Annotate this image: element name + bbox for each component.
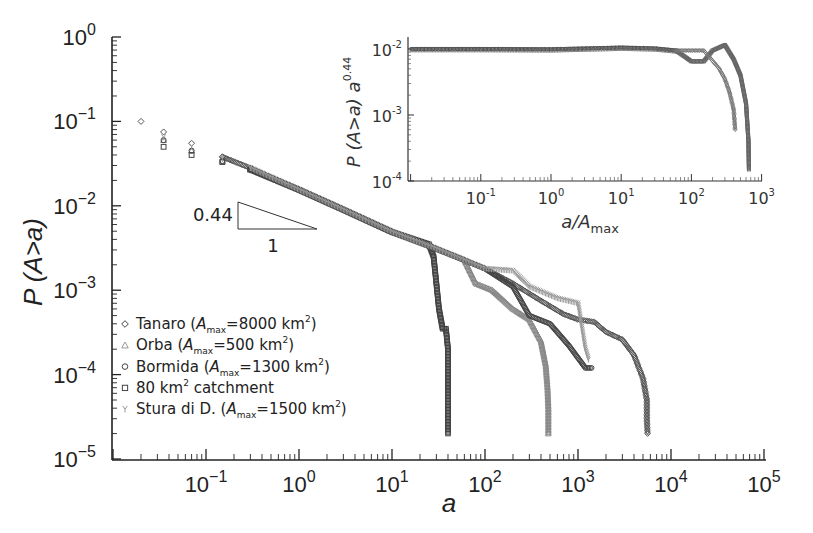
square-marker xyxy=(446,357,450,361)
diamond-marker xyxy=(189,140,195,146)
inset-x-title-sub: max xyxy=(591,221,620,236)
square-marker xyxy=(446,378,450,382)
y-tick-label: 10−5 xyxy=(53,443,96,472)
square-marker xyxy=(446,416,450,420)
x-tick-label: 102 xyxy=(468,468,501,497)
square-marker xyxy=(446,385,450,389)
square-marker xyxy=(446,430,450,434)
circle-marker xyxy=(122,364,128,370)
legend-item: 80 km2 catchment xyxy=(122,378,274,397)
diamond-marker xyxy=(161,129,167,135)
square-marker xyxy=(446,388,450,392)
square-marker xyxy=(446,422,450,426)
square-marker xyxy=(446,348,450,352)
inset-y-title-main: P (A>a) a xyxy=(343,81,364,167)
diamond-marker xyxy=(138,118,144,124)
square-marker xyxy=(446,396,450,400)
main-x-axis-title: a xyxy=(442,488,456,518)
x-tick-label: 104 xyxy=(654,468,687,497)
legend-label: Stura di D. (Amax=1500 km2) xyxy=(136,399,347,420)
square-marker xyxy=(446,382,450,386)
triangle-marker xyxy=(122,342,129,348)
square-marker xyxy=(446,402,450,406)
legend-label: 80 km2 catchment xyxy=(136,378,274,397)
square-marker xyxy=(446,418,450,422)
slope-triangle: 0.44 1 xyxy=(193,202,317,256)
main-plot: 10010−110−210−310−410−5 10−1100101102103… xyxy=(18,21,781,518)
square-marker xyxy=(446,391,450,395)
square-marker xyxy=(446,415,450,419)
inset-y-ticks xyxy=(408,49,414,181)
slope-triangle-shape xyxy=(238,202,317,229)
main-x-tick-labels: 10−1100101102103104105 xyxy=(185,468,781,497)
square-marker xyxy=(446,356,450,360)
legend-item: Bormida (Amax=1300 km2) xyxy=(122,357,330,378)
x-tick-label: 105 xyxy=(747,468,780,497)
y-tick-label: 10−1 xyxy=(53,105,96,134)
inset-x-axis-title: a/Amax xyxy=(561,211,619,236)
square-marker xyxy=(446,428,450,432)
inset-y-tick-label: 10-4 xyxy=(372,171,402,192)
square-marker xyxy=(446,354,450,358)
inset-x-tick-label: 100 xyxy=(538,187,565,208)
square-marker xyxy=(446,375,450,379)
inset-x-tick-label: 10-1 xyxy=(466,187,496,208)
x-tick-label: 103 xyxy=(561,468,594,497)
square-marker xyxy=(446,427,450,431)
inset-data-series xyxy=(409,43,751,170)
legend: Tanaro (Amax=8000 km2)Orba (Amax=500 km2… xyxy=(122,314,347,420)
square-marker xyxy=(446,397,450,401)
square-marker xyxy=(161,144,166,149)
y-tick-label: 10−3 xyxy=(53,274,96,303)
main-x-ticks xyxy=(113,449,764,460)
square-marker xyxy=(446,351,450,355)
square-marker xyxy=(446,414,450,418)
square-marker xyxy=(446,350,450,354)
x-tick-label: 100 xyxy=(282,468,315,497)
square-marker xyxy=(446,412,450,416)
inset-y-tick-labels: 10-210-310-4 xyxy=(372,39,402,192)
chart-canvas: 10010−110−210−310−410−5 10−1100101102103… xyxy=(0,0,813,533)
square-marker xyxy=(446,369,450,373)
square-marker xyxy=(446,372,450,376)
square-marker xyxy=(446,408,450,412)
square-marker xyxy=(446,400,450,404)
square-marker xyxy=(446,424,450,428)
inset-plot: 10-210-310-4 10-1100101102103 P (A>a) a0… xyxy=(341,37,775,236)
square-marker xyxy=(446,419,450,423)
square-marker xyxy=(446,353,450,357)
x-tick-label: 10−1 xyxy=(185,468,228,497)
inset-x-tick-labels: 10-1100101102103 xyxy=(466,187,775,208)
square-marker xyxy=(446,365,450,369)
inset-x-title-main: a/A xyxy=(561,211,590,232)
inset-y-title-exp: 0.44 xyxy=(341,57,354,82)
square-marker xyxy=(446,374,450,378)
x-tick-label: 101 xyxy=(375,468,408,497)
square-marker xyxy=(446,403,450,407)
main-y-axis-title: P (A>a) xyxy=(18,218,48,306)
square-marker xyxy=(446,371,450,375)
square-marker xyxy=(446,394,450,398)
inset-x-tick-label: 101 xyxy=(608,187,635,208)
legend-label: Tanaro (Amax=8000 km2) xyxy=(135,314,317,335)
square-marker xyxy=(446,362,450,366)
square-marker xyxy=(446,393,450,397)
square-marker xyxy=(122,385,127,390)
square-marker xyxy=(446,384,450,388)
square-marker xyxy=(446,399,450,403)
square-marker xyxy=(446,431,450,435)
inset-x-tick-label: 102 xyxy=(678,187,705,208)
square-marker xyxy=(446,406,450,410)
legend-item: Orba (Amax=500 km2) xyxy=(122,335,294,356)
square-marker xyxy=(446,390,450,394)
inset-y-tick-label: 10-2 xyxy=(372,39,402,60)
x-marker xyxy=(123,406,128,413)
square-marker xyxy=(446,425,450,429)
square-marker xyxy=(446,368,450,372)
square-marker xyxy=(446,366,450,370)
main-y-tick-labels: 10010−110−210−310−410−5 xyxy=(53,21,96,472)
square-marker xyxy=(446,387,450,391)
legend-label: Orba (Amax=500 km2) xyxy=(136,335,294,356)
legend-label: Bormida (Amax=1300 km2) xyxy=(136,357,330,378)
diamond-marker xyxy=(122,321,129,328)
